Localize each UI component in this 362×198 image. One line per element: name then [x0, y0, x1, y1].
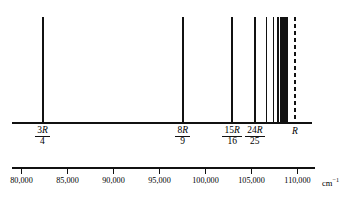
- fraction-denominator: 4: [35, 136, 50, 147]
- axis-tick-label: 90,000: [102, 176, 125, 185]
- wavenumber-axis-line: [12, 167, 315, 169]
- axis-tick: [113, 168, 114, 174]
- fraction-numerator: 3R: [35, 126, 50, 136]
- fraction-denominator: 25: [245, 136, 264, 147]
- fraction-label: R: [290, 127, 300, 137]
- fraction-label: 3R4: [35, 126, 50, 147]
- fraction-label: 8R9: [175, 126, 190, 147]
- spectrum-baseline: [12, 122, 312, 124]
- spectral-line: [182, 17, 184, 122]
- spectral-line: [277, 17, 278, 122]
- spectral-line: [287, 17, 288, 122]
- spectral-line: [254, 17, 256, 122]
- fraction-numerator: R: [290, 127, 300, 137]
- axis-unit-label: cm−1: [322, 176, 339, 188]
- axis-tick: [21, 168, 22, 174]
- spectral-line: [273, 17, 274, 122]
- axis-tick-label: 85,000: [56, 176, 79, 185]
- spectral-line: [266, 17, 267, 122]
- fraction-numerator: 24R: [245, 126, 264, 136]
- axis-tick: [251, 168, 252, 174]
- spectral-line: [42, 17, 44, 122]
- axis-tick-label: 100,000: [192, 176, 219, 185]
- fraction-label: 24R25: [245, 126, 264, 147]
- fraction-numerator: 8R: [175, 126, 190, 136]
- axis-tick-label: 80,000: [10, 176, 33, 185]
- spectral-line: [231, 17, 233, 122]
- fraction-denominator: 16: [222, 136, 241, 147]
- axis-tick: [67, 168, 68, 174]
- series-limit-dashed-line: [294, 17, 296, 122]
- spectrum-figure: 3R48R915R1624R25R 80,00085,00090,00095,0…: [0, 0, 362, 198]
- axis-tick-label: 110,000: [284, 176, 310, 185]
- fraction-denominator: 9: [175, 136, 190, 147]
- fraction-numerator: 15R: [222, 126, 241, 136]
- fraction-label: 15R16: [222, 126, 241, 147]
- axis-tick-label: 95,000: [148, 176, 171, 185]
- axis-tick-label: 105,000: [238, 176, 265, 185]
- axis-tick: [205, 168, 206, 174]
- axis-tick: [159, 168, 160, 174]
- axis-tick: [297, 168, 298, 174]
